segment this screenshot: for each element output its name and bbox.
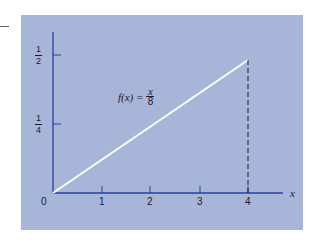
function-numerator: x xyxy=(148,86,153,96)
y-half-denominator: 2 xyxy=(36,57,41,66)
x-label-0: 0 xyxy=(41,196,47,207)
y-label-quarter: 1 4 xyxy=(35,114,42,135)
function-lhs: f(x) = xyxy=(118,91,143,103)
x-axis-label: x xyxy=(290,187,295,199)
x-label-2: 2 xyxy=(147,196,153,207)
chart-svg xyxy=(0,0,319,240)
y-label-half: 1 2 xyxy=(35,45,42,66)
function-fraction: x 8 xyxy=(146,86,154,107)
y-quarter-numerator: 1 xyxy=(36,114,41,123)
y-quarter-denominator: 4 xyxy=(36,126,41,135)
function-line xyxy=(53,60,248,193)
x-label-4: 4 xyxy=(245,196,251,207)
x-label-1: 1 xyxy=(99,196,105,207)
y-half-numerator: 1 xyxy=(36,45,41,54)
x-label-3: 3 xyxy=(197,196,203,207)
function-denominator: 8 xyxy=(148,97,154,107)
function-annotation: f(x) = x 8 xyxy=(118,86,154,107)
